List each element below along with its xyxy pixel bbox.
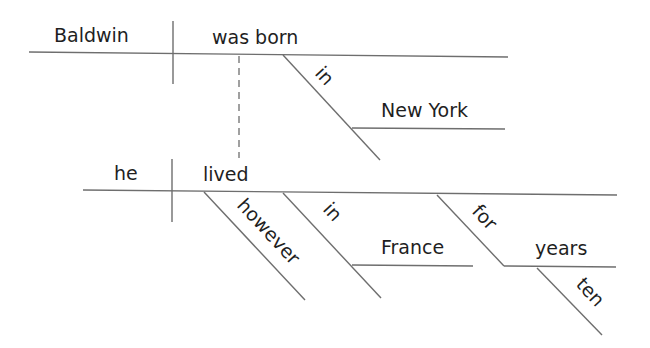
clause-relative: he lived however in France for years ten [83,159,617,335]
adverb-however: however [204,192,305,300]
preposition-in-2: in [319,198,347,226]
object-years: years [535,237,587,259]
modifier-ten: ten [572,273,609,311]
object-new-york: New York [381,99,468,121]
baseline-main [29,52,508,57]
prep-phrase-for-ten-years: for years ten [437,195,616,335]
sentence-diagram: Baldwin was born in New York he lived ho… [0,0,650,348]
preposition-for: for [468,200,502,234]
object-line-new-york [352,128,505,129]
preposition-in-1: in [311,62,339,90]
verb-lived: lived [203,163,249,185]
subject-baldwin: Baldwin [54,24,129,46]
prep-phrase-in-france: in France [283,193,473,298]
verb-was-born: was born [212,26,298,48]
object-line-france [352,265,473,266]
subject-he: he [114,162,138,184]
object-france: France [381,236,444,258]
prep-phrase-in-new-york: in New York [283,55,505,160]
object-line-years [504,266,616,267]
baseline-relative [83,190,617,195]
slant-for [437,195,504,266]
clause-main: Baldwin was born in New York [29,21,508,160]
